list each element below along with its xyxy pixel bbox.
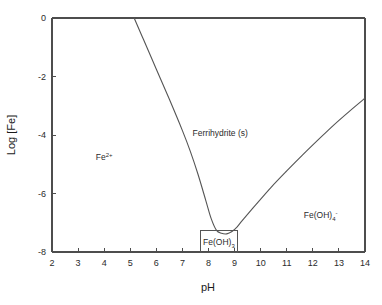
x-tick-label: 6 [154, 258, 159, 268]
ferrous-charge: 2+ [106, 152, 113, 158]
x-tick-label: 4 [102, 258, 107, 268]
y-tick-label: -4 [38, 130, 46, 140]
solubility-diagram-figure: 234567891011121314 0-2-4-6-8 Fe2+ Ferrih… [0, 0, 382, 305]
y-tick-label: -2 [38, 72, 46, 82]
solubility-chart-canvas: 234567891011121314 0-2-4-6-8 Fe2+ Ferrih… [0, 0, 382, 305]
x-tick-label: 10 [256, 258, 266, 268]
tetrahydroxo-charge: - [336, 210, 338, 216]
x-tick-label: 7 [180, 258, 185, 268]
species-label-ferrihydrite: Ferrihydrite (s) [193, 128, 248, 138]
y-tick-label: -6 [38, 189, 46, 199]
x-tick-label: 8 [206, 258, 211, 268]
y-tick-label: 0 [41, 13, 46, 23]
y-tick-label: -8 [38, 247, 46, 257]
tetrahydroxo-base: Fe(OH) [304, 210, 333, 220]
x-tick-label: 9 [232, 258, 237, 268]
x-tick-label: 13 [334, 258, 344, 268]
ferric-hydroxide-base: Fe(OH) [203, 237, 232, 247]
x-tick-label: 12 [308, 258, 318, 268]
x-axis-title: pH [201, 281, 215, 293]
x-tick-label: 3 [76, 258, 81, 268]
y-axis-title: Log [Fe] [5, 115, 17, 155]
x-tick-label: 11 [282, 258, 291, 268]
x-tick-label: 2 [49, 258, 54, 268]
x-tick-label: 14 [360, 258, 370, 268]
x-tick-label: 5 [128, 258, 133, 268]
ferrous-base: Fe [96, 152, 106, 162]
